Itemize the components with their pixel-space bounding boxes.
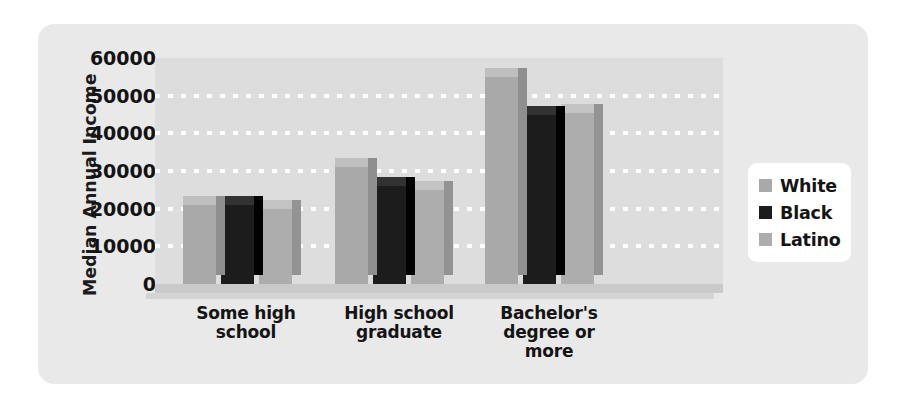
plot-floor-front (146, 293, 714, 299)
legend-label: Black (780, 203, 832, 223)
legend-label: Latino (780, 230, 841, 250)
bar-top-face (411, 181, 444, 190)
bar-top-face (373, 177, 406, 186)
bar-black-group-2[interactable] (373, 177, 406, 284)
bar-side-face (594, 104, 603, 275)
bar-top-face (523, 106, 556, 115)
bar-side-face (292, 200, 301, 275)
bar-white-group-1[interactable] (183, 196, 216, 284)
bar-front-face (485, 77, 518, 284)
plot-floor (155, 284, 723, 293)
bar-top-face (183, 196, 216, 205)
chart-card: Median Annual Income 6000050000400003000… (38, 24, 868, 384)
category-label-line: Some high (175, 304, 317, 323)
category-label-1: Some highschool (175, 304, 317, 342)
category-label-line: degree or (478, 323, 620, 342)
bar-top-face (485, 68, 518, 77)
y-axis-tick-40000: 40000 (90, 124, 156, 143)
category-label-3: Bachelor'sdegree ormore (478, 304, 620, 361)
bar-front-face (523, 115, 556, 285)
bar-group-1 (183, 58, 333, 284)
bar-front-face (335, 167, 368, 284)
bar-top-face (561, 104, 594, 113)
bar-white-group-3[interactable] (485, 68, 518, 284)
bar-front-face (561, 113, 594, 284)
chart-legend: WhiteBlackLatino (748, 163, 851, 262)
bar-latino-group-2[interactable] (411, 181, 444, 284)
y-axis-tick-60000: 60000 (90, 49, 156, 68)
bar-latino-group-1[interactable] (259, 200, 292, 284)
bar-side-face (254, 196, 263, 275)
legend-item-latino[interactable]: Latino (748, 226, 851, 253)
category-label-line: more (478, 342, 620, 361)
bar-side-face (556, 106, 565, 276)
plot-area (155, 58, 723, 284)
category-label-line: graduate (328, 323, 470, 342)
bar-front-face (259, 209, 292, 284)
bar-group-3 (485, 58, 635, 284)
y-axis-tick-0: 0 (143, 275, 156, 294)
bar-side-face (518, 68, 527, 275)
bar-white-group-2[interactable] (335, 158, 368, 284)
legend-item-black[interactable]: Black (748, 199, 851, 226)
legend-item-white[interactable]: White (748, 172, 851, 199)
bar-front-face (183, 205, 216, 284)
bar-top-face (335, 158, 368, 167)
y-axis-tick-20000: 20000 (90, 200, 156, 219)
category-label-line: Bachelor's (478, 304, 620, 323)
category-label-line: school (175, 323, 317, 342)
bar-side-face (406, 177, 415, 275)
bar-front-face (373, 186, 406, 284)
bar-top-face (259, 200, 292, 209)
bar-front-face (221, 205, 254, 284)
bar-group-2 (335, 58, 485, 284)
bar-black-group-1[interactable] (221, 196, 254, 284)
bar-latino-group-3[interactable] (561, 104, 594, 284)
category-label-2: High schoolgraduate (328, 304, 470, 342)
category-label-line: High school (328, 304, 470, 323)
bar-side-face (368, 158, 377, 275)
legend-swatch-icon (759, 179, 772, 192)
legend-swatch-icon (759, 206, 772, 219)
bar-black-group-3[interactable] (523, 106, 556, 285)
y-axis-tick-30000: 30000 (90, 162, 156, 181)
bar-front-face (411, 190, 444, 284)
y-axis-tick-10000: 10000 (90, 237, 156, 256)
legend-swatch-icon (759, 233, 772, 246)
bar-side-face (444, 181, 453, 275)
legend-label: White (780, 176, 837, 196)
bar-top-face (221, 196, 254, 205)
bar-side-face (216, 196, 225, 275)
y-axis-tick-labels: 6000050000400003000020000100000 (78, 58, 156, 318)
y-axis-tick-50000: 50000 (90, 87, 156, 106)
